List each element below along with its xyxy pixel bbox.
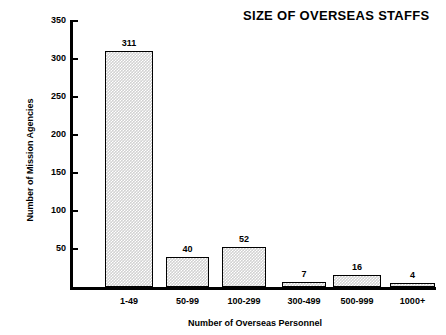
y-tick-mark <box>70 248 78 250</box>
y-tick-label: 300 <box>20 53 66 63</box>
bar-value-label: 7 <box>282 269 326 279</box>
x-axis-label: Number of Overseas Personnel <box>72 318 438 328</box>
y-tick-mark <box>70 134 78 136</box>
y-axis-label: Number of Mission Agencies <box>25 80 35 240</box>
y-tick-label: 100 <box>20 205 66 215</box>
y-tick-label: 200 <box>20 129 66 139</box>
y-tick-mark <box>70 20 78 22</box>
x-axis-line <box>70 287 436 290</box>
x-tick-label: 50-99 <box>156 296 219 306</box>
y-tick-label: 50 <box>20 243 66 253</box>
y-tick-label: 350 <box>20 15 66 25</box>
bar-chart: SIZE OF OVERSEAS STAFFS Number of Missio… <box>0 0 446 335</box>
y-tick-mark <box>70 210 78 212</box>
x-tick-label: 1000+ <box>380 296 445 306</box>
bar-value-label: 16 <box>333 262 381 272</box>
y-tick-mark <box>70 96 78 98</box>
y-tick-label: 250 <box>20 91 66 101</box>
y-tick-mark <box>70 58 78 60</box>
bar <box>166 257 209 287</box>
y-tick-mark <box>70 172 78 174</box>
bar-value-label: 40 <box>166 244 209 254</box>
bar <box>105 51 153 287</box>
x-tick-label: 1-49 <box>95 296 163 306</box>
bar <box>282 282 326 287</box>
bar <box>222 247 266 287</box>
bar <box>333 275 381 287</box>
bar <box>390 283 435 287</box>
chart-title: SIZE OF OVERSEAS STAFFS <box>243 8 430 23</box>
bar-value-label: 52 <box>222 234 266 244</box>
bar-value-label: 311 <box>105 38 153 48</box>
x-tick-label: 100-299 <box>212 296 276 306</box>
y-tick-label: 150 <box>20 167 66 177</box>
bar-value-label: 4 <box>390 270 435 280</box>
